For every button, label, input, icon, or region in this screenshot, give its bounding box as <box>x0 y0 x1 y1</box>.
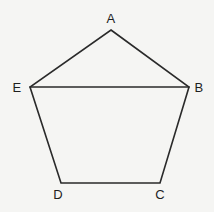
vertex-label-b: B <box>195 81 204 94</box>
pentagon-drawing-canvas <box>0 0 214 212</box>
vertex-label-d: D <box>53 188 63 201</box>
pentagon-outline-path <box>30 30 189 183</box>
geometry-figure-pentagon: A B C D E <box>0 0 214 212</box>
vertex-label-a: A <box>107 12 116 25</box>
vertex-label-c: C <box>155 188 165 201</box>
vertex-label-e: E <box>13 81 22 94</box>
